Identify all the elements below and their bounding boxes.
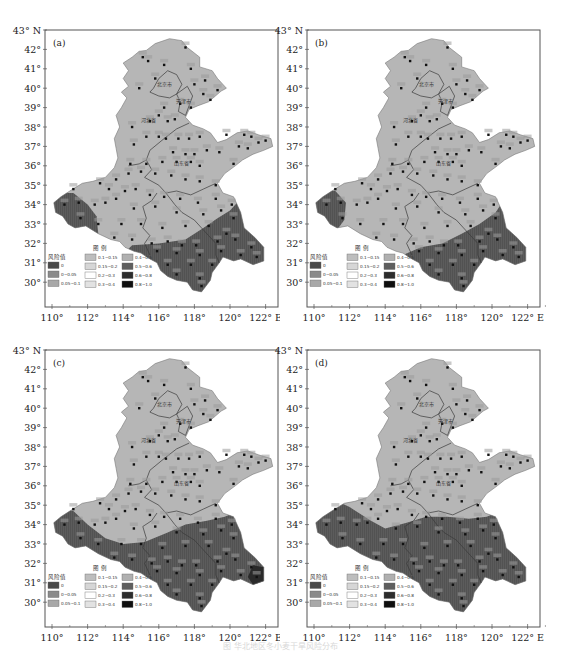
station-label [353, 519, 361, 523]
station-marker [386, 510, 388, 512]
station-label [372, 232, 380, 236]
station-label [139, 51, 147, 55]
station-label [112, 173, 120, 177]
station-marker [446, 46, 448, 48]
station-label [158, 156, 166, 160]
station-label [217, 565, 225, 569]
station-marker [461, 485, 463, 487]
legend-label: 0.2~0.3 [98, 593, 115, 598]
station-marker [94, 203, 96, 205]
station-marker [184, 153, 186, 155]
station-label [247, 131, 255, 135]
station-marker [207, 225, 209, 227]
station-marker [446, 545, 448, 547]
station-label [458, 569, 466, 573]
legend-swatch [122, 254, 133, 261]
station-label [160, 422, 168, 426]
station-label [235, 140, 243, 144]
legend-header: 风险值 [48, 253, 66, 261]
station-marker [231, 523, 233, 525]
station-marker [395, 143, 397, 145]
station-marker [452, 106, 454, 108]
station-label [390, 554, 398, 558]
station-marker [500, 465, 502, 467]
station-label [426, 235, 434, 239]
station-marker [478, 240, 480, 242]
station-marker [429, 584, 431, 586]
station-label [422, 191, 430, 195]
station-marker [195, 244, 197, 246]
station-label [164, 115, 172, 119]
lat-tick-label: 30° [286, 597, 303, 608]
station-label [456, 197, 464, 201]
station-label [190, 78, 198, 82]
station-label [461, 528, 469, 532]
station-label [162, 453, 170, 457]
station-label [436, 453, 444, 457]
station-label [479, 524, 487, 528]
station-label [132, 503, 140, 507]
legend-label: 0.05~0.1 [323, 601, 343, 606]
legend-swatch [122, 592, 133, 599]
legend-label: 0.1~0.15 [98, 575, 118, 580]
legend-swatch [48, 280, 59, 287]
station-marker [158, 136, 160, 138]
station-label [160, 379, 168, 383]
station-marker [416, 205, 418, 207]
station-marker [215, 518, 217, 520]
station-marker [145, 136, 147, 138]
station-label [458, 480, 466, 484]
station-marker [461, 165, 463, 167]
station-marker [72, 508, 74, 510]
legend-swatch [310, 262, 321, 269]
station-marker [133, 527, 135, 529]
station-label [461, 88, 469, 92]
station-marker [494, 217, 496, 219]
legend-label: 0.4~0.5 [135, 575, 152, 580]
station-marker [239, 254, 241, 256]
station-label [205, 540, 213, 544]
station-label [454, 239, 462, 243]
station-label [94, 538, 102, 542]
station-marker [133, 207, 135, 209]
station-label [173, 247, 181, 251]
station-label [515, 251, 523, 255]
station-marker [356, 203, 358, 205]
legend-label: 0.1~0.15 [360, 255, 380, 260]
lat-tick-label: 34° [24, 519, 41, 530]
station-label [222, 228, 230, 232]
legend-swatch [347, 281, 358, 288]
region-label: 天津市 [438, 98, 453, 105]
station-label [182, 361, 190, 365]
station-label [167, 490, 175, 494]
station-label [322, 199, 330, 203]
station-marker [211, 584, 213, 586]
lat-tick-label: 33° [24, 539, 41, 550]
lat-tick-label: 39° [24, 102, 41, 113]
station-label [497, 460, 505, 464]
station-label [406, 55, 414, 59]
station-marker [473, 584, 475, 586]
legend-label: 0.8~1.0 [397, 602, 414, 607]
station-marker [386, 190, 388, 192]
station-label [206, 94, 214, 98]
station-label [247, 451, 255, 455]
station-label [477, 146, 485, 150]
station-label [356, 538, 364, 542]
station-label [212, 179, 220, 183]
station-marker [140, 543, 142, 545]
station-label [101, 517, 109, 521]
lat-tick-label: 38° [24, 122, 41, 133]
legend-swatch [48, 600, 59, 607]
station-label [415, 245, 423, 249]
station-marker [437, 593, 439, 595]
station-marker [446, 473, 448, 475]
legend-swatch [85, 574, 96, 581]
station-label [112, 193, 120, 197]
legend-label: 0.1~0.15 [360, 575, 380, 580]
station-label [444, 173, 452, 177]
station-marker [400, 407, 402, 409]
legend-label: 0~0.05 [323, 592, 339, 597]
station-label [447, 453, 455, 457]
station-marker [172, 471, 174, 473]
